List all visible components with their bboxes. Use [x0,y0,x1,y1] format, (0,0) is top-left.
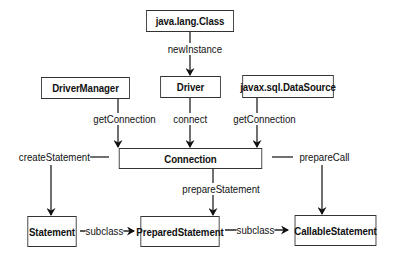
edge-label-dm-get-connection: getConnection [93,113,155,125]
node-driver: Driver [160,76,221,98]
node-prepared-statement: PreparedStatement [140,216,219,247]
node-java-lang-class: java.lang.Class [146,10,234,32]
node-driver-manager: DriverManager [41,77,130,99]
edge-label-create-statement: createStatement [19,151,90,163]
jdbc-class-diagram: java.lang.Class DriverManager Driver jav… [0,0,399,262]
edge-label-prepare-call: prepareCall [299,151,349,163]
edge-label-prepare-statement: prepareStatement [182,183,259,195]
edge-label-ds-get-connection: getConnection [233,113,295,125]
node-data-source: javax.sql.DataSource [242,75,334,98]
edge-label-subclass-2: subclass [237,224,275,236]
node-statement: Statement [27,216,76,247]
edge-label-subclass-1: subclass [86,225,124,237]
node-connection: Connection [119,148,262,169]
edge-label-connect: connect [173,113,207,125]
edge-label-new-instance: newInstance [168,43,222,55]
node-callable-statement: CallableStatement [295,215,377,246]
